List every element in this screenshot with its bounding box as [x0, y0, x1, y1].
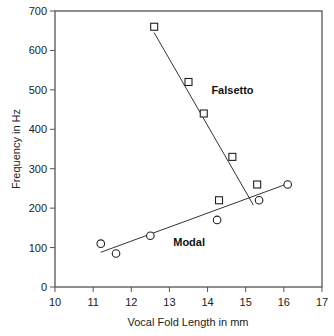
circle-marker — [255, 196, 263, 204]
x-tick-label: 17 — [316, 296, 328, 308]
x-tick-label: 12 — [125, 296, 137, 308]
square-marker — [229, 153, 236, 160]
falsetto-fit-line — [154, 33, 253, 205]
y-axis-title: Frequency in Hz — [10, 109, 22, 189]
x-tick-label: 13 — [163, 296, 175, 308]
x-tick-label: 16 — [278, 296, 290, 308]
y-tick-label: 0 — [41, 281, 47, 293]
y-tick-label: 500 — [29, 84, 47, 96]
square-marker — [254, 181, 261, 188]
circle-marker — [112, 250, 120, 258]
fit-lines — [101, 33, 288, 253]
data-points — [97, 23, 292, 257]
x-axis-title: Vocal Fold Length in mm — [127, 316, 248, 328]
x-axis-ticks: 1011121314151617 — [49, 287, 328, 308]
series-labels: FalsettoModal — [173, 84, 254, 248]
circle-marker — [97, 240, 105, 248]
y-tick-label: 100 — [29, 242, 47, 254]
y-tick-label: 400 — [29, 123, 47, 135]
modal-label: Modal — [173, 236, 205, 248]
y-tick-label: 200 — [29, 202, 47, 214]
square-marker — [200, 110, 207, 117]
x-tick-label: 14 — [201, 296, 213, 308]
x-tick-label: 10 — [49, 296, 61, 308]
square-marker — [216, 197, 223, 204]
y-tick-label: 600 — [29, 44, 47, 56]
circle-marker — [147, 232, 155, 240]
y-tick-label: 300 — [29, 163, 47, 175]
chart-canvas: 1011121314151617 0100200300400500600700 … — [0, 0, 334, 336]
circle-marker — [284, 181, 292, 189]
square-marker — [185, 78, 192, 85]
square-marker — [151, 23, 158, 30]
falsetto-label: Falsetto — [211, 84, 253, 96]
x-tick-label: 15 — [240, 296, 252, 308]
circle-marker — [213, 216, 221, 224]
x-tick-label: 11 — [87, 296, 98, 308]
y-tick-label: 700 — [29, 5, 47, 17]
y-axis-ticks: 0100200300400500600700 — [29, 5, 55, 293]
